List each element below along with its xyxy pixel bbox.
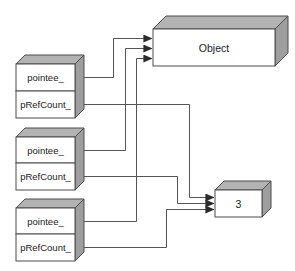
refcount-block-top-face: [215, 181, 271, 190]
reference-count-diagram: Object 3 pointee_ pRefCount_ pointee_ pR…: [0, 0, 295, 271]
diagram-canvas: Object 3 pointee_ pRefCount_ pointee_ pR…: [0, 0, 295, 271]
smart-pointer-1-prefcount-label: pRefCount_: [20, 99, 71, 110]
smart-pointer-1-top-face: [16, 55, 84, 64]
smart-pointer-2: pointee_ pRefCount_: [16, 128, 84, 190]
smart-pointer-3-side-face: [75, 199, 84, 261]
connector-prefcount-2: [75, 177, 215, 204]
smart-pointer-1-side-face: [75, 55, 84, 118]
smart-pointer-2-side-face: [75, 128, 84, 190]
smart-pointer-2-pointee-label: pointee_: [27, 145, 64, 156]
connector-lines: [75, 39, 215, 248]
object-block-label: Object: [199, 42, 229, 54]
smart-pointer-1-pointee-label: pointee_: [27, 72, 64, 83]
smart-pointer-2-top-face: [16, 128, 84, 137]
refcount-block: 3: [215, 181, 271, 217]
object-block-top-face: [153, 16, 288, 29]
refcount-block-label: 3: [236, 198, 242, 210]
smart-pointer-3: pointee_ pRefCount_: [16, 199, 84, 261]
smart-pointer-3-top-face: [16, 199, 84, 208]
smart-pointer-2-prefcount-label: pRefCount_: [20, 171, 71, 182]
connector-prefcount-3: [75, 210, 215, 248]
smart-pointer-3-pointee-label: pointee_: [27, 216, 64, 227]
smart-pointer-3-prefcount-label: pRefCount_: [20, 242, 71, 253]
object-block: Object: [153, 16, 288, 66]
smart-pointer-1: pointee_ pRefCount_: [16, 55, 84, 118]
connector-pointee-3: [75, 59, 153, 222]
